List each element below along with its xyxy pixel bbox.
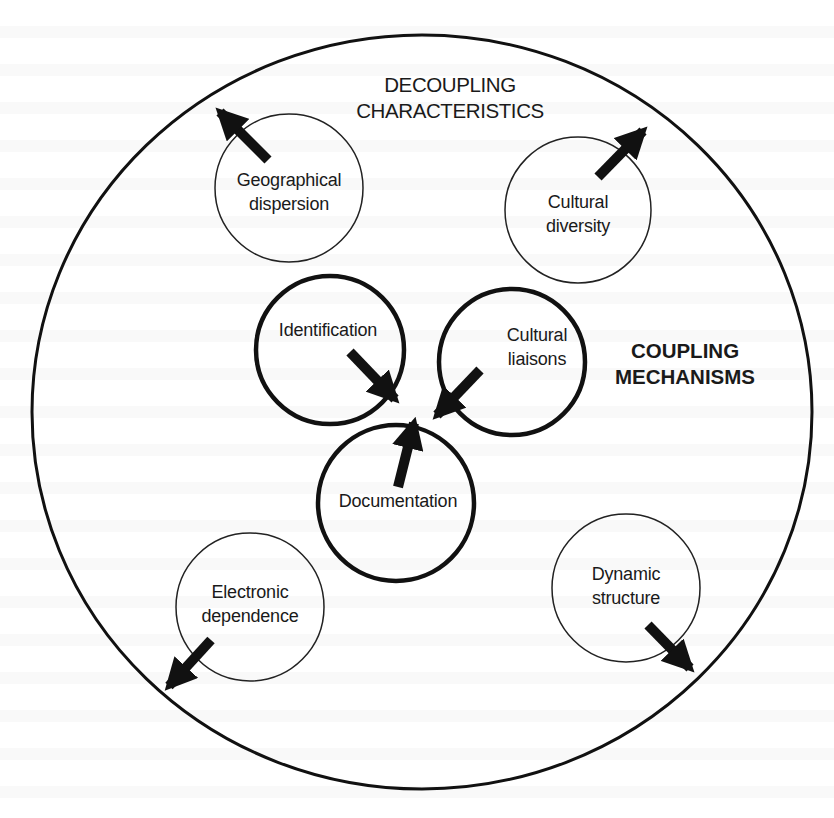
diagram-canvas: DECOUPLING CHARACTERISTICS COUPLING MECH… — [0, 0, 834, 818]
node-label-cultural-diversity: Cultural diversity — [546, 190, 610, 238]
node-label-dynamic-structure: Dynamic structure — [592, 562, 661, 610]
coupling-mechanisms-heading: COUPLING MECHANISMS — [615, 338, 755, 390]
node-label-cultural-liaisons: Cultural liaisons — [507, 323, 567, 371]
decoupling-characteristics-heading: DECOUPLING CHARACTERISTICS — [356, 72, 544, 124]
node-label-line: liaisons — [507, 347, 567, 371]
node-label-line: Cultural — [546, 190, 610, 214]
arrow-icon-identification-inward — [350, 352, 395, 399]
arrow-icon-documentation-inward — [398, 423, 414, 487]
heading-line: COUPLING — [615, 338, 755, 364]
node-label-line: Cultural — [507, 323, 567, 347]
node-label-line: Dynamic — [592, 562, 661, 586]
node-label-line: Electronic — [201, 580, 298, 604]
node-label-line: Documentation — [339, 489, 457, 513]
node-label-electronic-dependence: Electronic dependence — [201, 580, 298, 628]
outer-boundary-circle — [32, 35, 812, 789]
arrow-icon-dynamic-outward — [648, 625, 690, 668]
node-label-line: structure — [592, 586, 661, 610]
node-label-geographical-dispersion: Geographical dispersion — [237, 168, 342, 216]
node-label-line: dependence — [201, 604, 298, 628]
arrow-icon-electronic-outward — [169, 640, 211, 686]
heading-line: DECOUPLING — [356, 72, 544, 98]
node-circle-identification — [256, 276, 404, 424]
arrow-icon-cultural-diversity-outward — [598, 131, 643, 177]
node-label-identification: Identification — [279, 318, 377, 342]
heading-line: CHARACTERISTICS — [356, 98, 544, 124]
node-label-line: diversity — [546, 214, 610, 238]
node-label-line: Geographical — [237, 168, 342, 192]
heading-line: MECHANISMS — [615, 364, 755, 390]
node-label-line: dispersion — [237, 192, 342, 216]
node-label-line: Identification — [279, 318, 377, 342]
node-label-documentation: Documentation — [339, 489, 457, 513]
